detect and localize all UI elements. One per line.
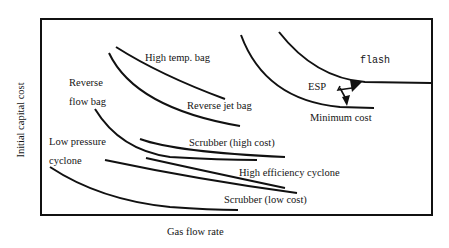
label-scrubber-low-cost: Scrubber (low cost) xyxy=(224,194,307,206)
esp-arrow-head-min xyxy=(342,95,350,106)
label-reverse-jet-bag: Reverse jet bag xyxy=(187,100,252,112)
label-low-pressure-cyclone-1: Low pressure xyxy=(49,136,106,148)
label-scrubber-high-cost: Scrubber (high cost) xyxy=(189,137,275,149)
x-axis-label: Gas flow rate xyxy=(167,226,224,237)
label-reverse-flow-bag-2: flow bag xyxy=(69,96,106,108)
curve-scrubber-low-cost xyxy=(50,167,238,210)
esp-arrow-head-flash xyxy=(350,80,362,92)
label-high-temp-bag: High temp. bag xyxy=(145,52,210,64)
label-minimum-cost: Minimum cost xyxy=(310,112,372,124)
label-reverse-flow-bag-1: Reverse xyxy=(69,77,103,89)
label-flash: flash xyxy=(360,55,390,67)
label-high-efficiency-cyclone: High efficiency cyclone xyxy=(239,167,340,179)
y-axis-label: Initial capital cost xyxy=(15,82,26,157)
curve-esp-minimum xyxy=(241,35,374,108)
label-esp: ESP xyxy=(308,81,326,93)
cost-diagram xyxy=(0,0,449,248)
y-axis-label-container: Initial capital cost xyxy=(12,50,28,190)
label-low-pressure-cyclone-2: cyclone xyxy=(49,155,82,167)
curve-esp-flash xyxy=(279,32,431,83)
curve-reverse-flow-bag xyxy=(95,109,257,160)
